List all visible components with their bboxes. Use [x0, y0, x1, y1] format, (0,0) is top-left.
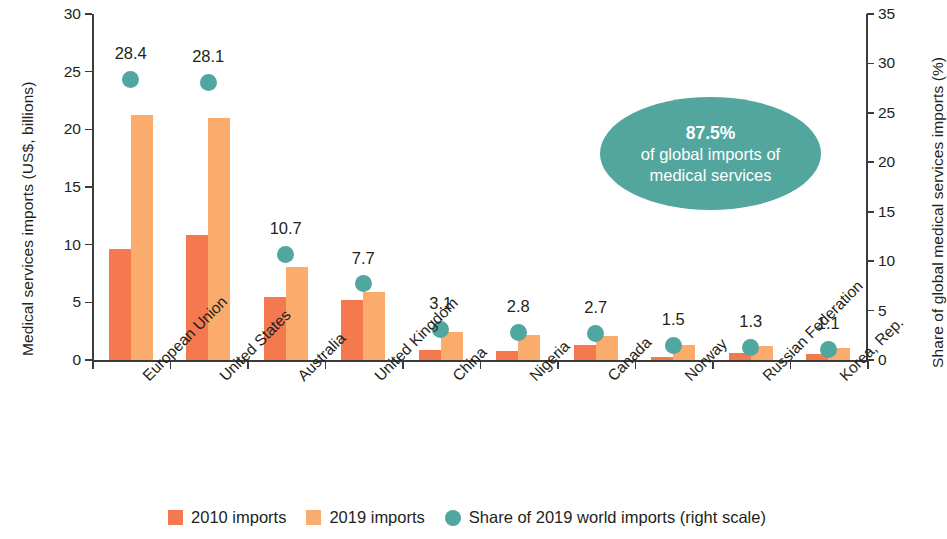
chart-legend: 2010 imports 2019 imports Share of 2019 …: [0, 508, 934, 527]
share-dot[interactable]: [277, 246, 294, 263]
bar-2010[interactable]: [109, 249, 131, 360]
y-axis-right-tick: [867, 310, 874, 312]
y-axis-left-tick: [85, 244, 92, 246]
y-axis-left-tick: [85, 302, 92, 304]
bar-2019[interactable]: [363, 292, 385, 360]
y-axis-right-tick-label: 10: [878, 253, 918, 269]
share-dot[interactable]: [122, 71, 139, 88]
legend-item-2010[interactable]: 2010 imports: [168, 508, 286, 527]
x-axis-tick: [92, 361, 94, 369]
share-value-label: 1.3: [716, 313, 786, 330]
share-value-label: 1.5: [638, 311, 708, 328]
y-axis-left-tick-label: 25: [41, 64, 81, 80]
legend-label-2010: 2010 imports: [191, 508, 286, 527]
share-dot[interactable]: [820, 341, 837, 358]
y-axis-right-tick: [867, 211, 874, 213]
y-axis-left-tick-label: 30: [41, 6, 81, 22]
y-axis-right-tick: [867, 260, 874, 262]
y-axis-right-tick-label: 0: [878, 352, 918, 368]
share-value-label: 2.7: [561, 299, 631, 316]
x-axis-category-label: Nigeria: [526, 372, 539, 385]
x-axis-category-label: Russian Federation: [759, 372, 772, 385]
y-axis-right-tick-label: 5: [878, 303, 918, 319]
y-axis-left-title: Medical services imports (US$, billions): [19, 82, 37, 356]
y-axis-left-tick-label: 20: [41, 121, 81, 137]
callout-percent: 87.5%: [686, 122, 736, 144]
share-value-label: 28.4: [96, 45, 166, 62]
share-value-label: 10.7: [251, 220, 321, 237]
y-axis-right-tick-label: 30: [878, 55, 918, 71]
legend-label-2019: 2019 imports: [329, 508, 424, 527]
x-axis-category-label: United Kingdom: [371, 372, 384, 385]
y-axis-left-tick: [85, 129, 92, 131]
y-axis-left-tick-label: 5: [41, 294, 81, 310]
share-value-label: 2.8: [483, 298, 553, 315]
y-axis-left-tick: [85, 359, 92, 361]
bar-2019[interactable]: [208, 118, 230, 360]
y-axis-right-title: Share of global medical services imports…: [929, 57, 947, 368]
y-axis-right-tick-label: 20: [878, 154, 918, 170]
share-dot[interactable]: [665, 337, 682, 354]
y-axis-right-tick: [867, 112, 874, 114]
bar-2019[interactable]: [131, 115, 153, 360]
share-dot[interactable]: [200, 74, 217, 91]
y-axis-right-tick-label: 15: [878, 204, 918, 220]
share-dot[interactable]: [587, 325, 604, 342]
share-value-label: 7.7: [328, 250, 398, 267]
legend-swatch-square-icon: [168, 510, 183, 525]
bar-2010[interactable]: [574, 345, 596, 360]
share-dot[interactable]: [742, 339, 759, 356]
y-axis-right-tick: [867, 13, 874, 15]
share-dot[interactable]: [510, 324, 527, 341]
share-value-label: 28.1: [173, 48, 243, 65]
y-axis-left-tick: [85, 13, 92, 15]
y-axis-right-tick-label: 35: [878, 6, 918, 22]
y-axis-left-tick: [85, 71, 92, 73]
y-axis-right-tick-label: 25: [878, 105, 918, 121]
y-axis-right-tick: [867, 161, 874, 163]
y-axis-left-tick-label: 10: [41, 237, 81, 253]
bar-2010[interactable]: [419, 350, 441, 360]
callout-line-3: medical services: [650, 165, 772, 186]
y-axis-left-tick-label: 15: [41, 179, 81, 195]
y-axis-left-tick: [85, 186, 92, 188]
legend-item-share[interactable]: Share of 2019 world imports (right scale…: [445, 508, 766, 527]
x-axis-category-label: Korea, Rep.: [836, 372, 849, 385]
y-axis-left-line: [92, 14, 94, 361]
x-axis-category-label: Canada: [604, 372, 617, 385]
bar-2010[interactable]: [651, 357, 673, 360]
x-axis-category-label: Australia: [294, 372, 307, 385]
callout-line-2: of global imports of: [641, 144, 780, 165]
legend-swatch-square-icon: [306, 510, 321, 525]
x-axis-category-label: European Union: [139, 372, 152, 385]
bar-2010[interactable]: [341, 300, 363, 360]
legend-item-2019[interactable]: 2019 imports: [306, 508, 424, 527]
x-axis-category-label: Norway: [681, 372, 694, 385]
x-axis-category-label: China: [449, 372, 462, 385]
share-callout-annotation: 87.5% of global imports of medical servi…: [600, 97, 821, 210]
legend-swatch-circle-icon: [445, 510, 461, 526]
y-axis-left-tick-label: 0: [41, 352, 81, 368]
y-axis-right-tick: [867, 63, 874, 65]
x-axis-category-label: United States: [216, 372, 229, 385]
legend-label-share: Share of 2019 world imports (right scale…: [469, 508, 766, 527]
bar-2010[interactable]: [496, 351, 518, 360]
share-dot[interactable]: [355, 275, 372, 292]
